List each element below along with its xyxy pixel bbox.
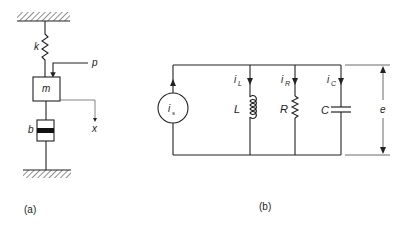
resistor-current-sub: R [285,80,290,87]
caption-b: (b) [259,201,271,212]
force-arrow [53,63,88,75]
damper-label: b [28,124,34,135]
displacement-label: x [91,123,98,134]
spring [42,21,48,77]
resistor-current-arrow-icon [292,78,298,85]
displacement-arrow [60,100,95,120]
voltage-arrow-up-icon [380,66,386,73]
inductor-label: L [234,103,240,115]
capacitor-current-arrow-icon [338,78,344,85]
spring-label: k [34,41,40,52]
inductor-current-label: i [234,74,237,85]
inductor [250,96,256,119]
current-source [158,93,188,123]
inductor-current-sub: L [238,80,242,87]
resistor-current-label: i [281,74,284,85]
resistor [292,96,298,118]
voltage-arrow-down-icon [380,147,386,154]
resistor-label: R [280,103,288,115]
caption-a: (a) [24,204,36,215]
mass-label: m [42,83,50,94]
capacitor-current-label: i [327,74,330,85]
bottom-ground [23,170,71,178]
top-ground [17,12,70,21]
mechanical-system: k p m x b (a) [17,12,98,215]
damper [37,120,54,170]
inductor-current-arrow-icon [247,78,253,85]
capacitor-current-sub: C [331,80,337,87]
diagram-canvas: k p m x b (a) i [0,0,408,229]
source-label-sub: s [172,110,175,116]
force-label: p [91,57,98,68]
electrical-circuit: i s i L L i R R i C C e (b) [158,65,390,212]
source-arrow-icon [170,79,176,86]
voltage-label: e [380,104,386,115]
capacitor-label: C [321,104,329,116]
